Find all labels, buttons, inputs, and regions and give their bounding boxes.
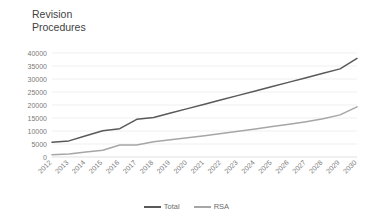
x-axis-tick-label: 2029 (325, 159, 341, 175)
x-axis-tick-label: 2030 (342, 159, 358, 175)
x-axis-tick-label: 2026 (274, 159, 290, 175)
y-axis-tick-label: 30000 (28, 76, 48, 83)
x-axis-tick-label: 2021 (189, 159, 205, 175)
y-axis-tick-labels: 0500010000150002000025000300003500040000 (28, 50, 48, 161)
y-axis-tick-label: 20000 (28, 102, 48, 109)
chart-plot-area: 0500010000150002000025000300003500040000… (0, 0, 373, 218)
x-axis-tick-label: 2012 (37, 159, 53, 175)
legend-label-total: Total (164, 202, 180, 211)
y-axis-tick-label: 15000 (28, 115, 48, 122)
legend-swatch-total (144, 206, 161, 208)
y-axis-tick-label: 40000 (28, 50, 48, 57)
legend-label-rsa: RSA (214, 202, 229, 211)
x-axis-tick-label: 2015 (88, 159, 104, 175)
x-axis-tick-label: 2013 (54, 159, 70, 175)
x-axis-tick-label: 2014 (71, 159, 87, 175)
revision-procedures-chart: Revision Procedures 05000100001500020000… (0, 0, 373, 218)
x-axis-tick-label: 2025 (257, 159, 273, 175)
x-axis-tick-label: 2022 (206, 159, 222, 175)
x-axis-tick-label: 2028 (308, 159, 324, 175)
x-axis-tick-label: 2020 (172, 159, 188, 175)
y-axis-tick-label: 10000 (28, 128, 48, 135)
legend-item-rsa[interactable]: RSA (194, 202, 229, 211)
series-line-total (52, 58, 357, 142)
x-axis-tick-label: 2017 (121, 159, 137, 175)
x-axis-tick-labels: 2012201320142015201620172018201920202021… (37, 159, 358, 175)
legend-swatch-rsa (194, 206, 211, 208)
x-axis-tick-label: 2027 (291, 159, 307, 175)
y-axis-tick-label: 25000 (28, 89, 48, 96)
y-axis-tick-label: 35000 (28, 63, 48, 70)
x-axis-tick-label: 2016 (105, 159, 121, 175)
data-series-group (52, 58, 357, 154)
x-axis-tick-label: 2024 (240, 159, 256, 175)
chart-legend: Total RSA (0, 202, 373, 211)
y-axis-tick-label: 5000 (31, 141, 47, 148)
x-axis-tick-label: 2023 (223, 159, 239, 175)
x-axis-tick-label: 2019 (155, 159, 171, 175)
legend-item-total[interactable]: Total (144, 202, 180, 211)
x-axis-tick-label: 2018 (138, 159, 154, 175)
gridlines (52, 53, 357, 157)
